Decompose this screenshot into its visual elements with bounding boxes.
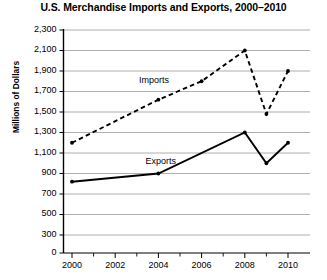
data-point-exports: [243, 131, 247, 135]
data-point-exports: [265, 161, 269, 165]
plot-area: [0, 0, 327, 280]
chart-container: U.S. Merchandise Imports and Exports, 20…: [0, 0, 327, 280]
data-point-imports: [265, 112, 269, 116]
data-point-imports: [157, 98, 161, 102]
data-point-exports: [286, 141, 290, 145]
series-line-exports: [72, 133, 288, 182]
data-point-imports: [200, 79, 204, 83]
data-point-imports: [243, 49, 247, 53]
series-line-imports: [72, 51, 288, 143]
data-point-exports: [157, 172, 161, 176]
data-point-imports: [70, 141, 74, 145]
data-point-exports: [70, 180, 74, 184]
data-point-imports: [286, 69, 290, 73]
